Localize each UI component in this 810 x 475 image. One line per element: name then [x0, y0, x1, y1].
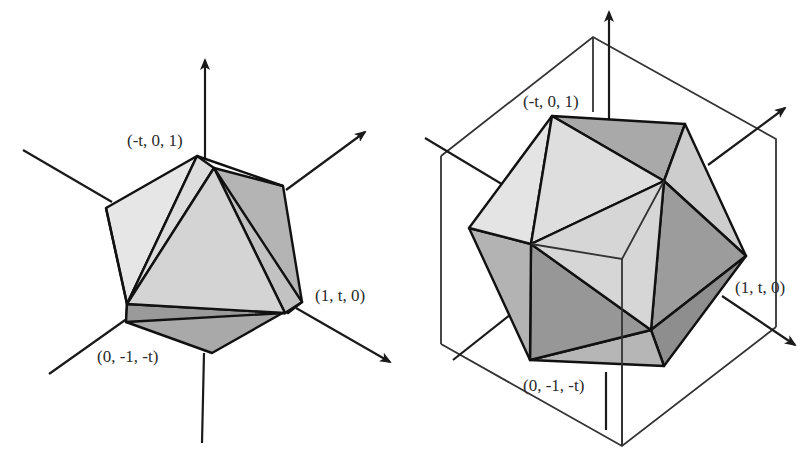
label-top-vertex: (-t, 0, 1) — [523, 92, 579, 111]
label-bottom-vertex: (0, -1, -t) — [97, 347, 158, 366]
label-right-vertex: (1, t, 0) — [735, 278, 785, 297]
axis-z-back — [202, 353, 204, 443]
axis-x-back — [23, 150, 112, 202]
left-panel: (-t, 0, 1) (1, t, 0) (0, -1, -t) — [23, 60, 390, 443]
label-right-vertex: (1, t, 0) — [315, 286, 365, 305]
axis-y-arrow — [708, 108, 785, 165]
axis-x-arrow — [296, 308, 390, 362]
right-panel: (-t, 0, 1) (1, t, 0) (0, -1, -t) — [425, 12, 795, 446]
axis-x-back — [425, 138, 505, 186]
axis-x-arrow — [722, 296, 795, 345]
icosahedron-figure: (-t, 0, 1) (1, t, 0) (0, -1, -t) — [0, 0, 810, 475]
axis-y-arrow — [286, 132, 365, 190]
right-icosahedron — [469, 116, 776, 446]
label-bottom-vertex: (0, -1, -t) — [523, 376, 584, 395]
left-icosahedron — [106, 156, 302, 353]
label-top-vertex: (-t, 0, 1) — [127, 131, 183, 150]
